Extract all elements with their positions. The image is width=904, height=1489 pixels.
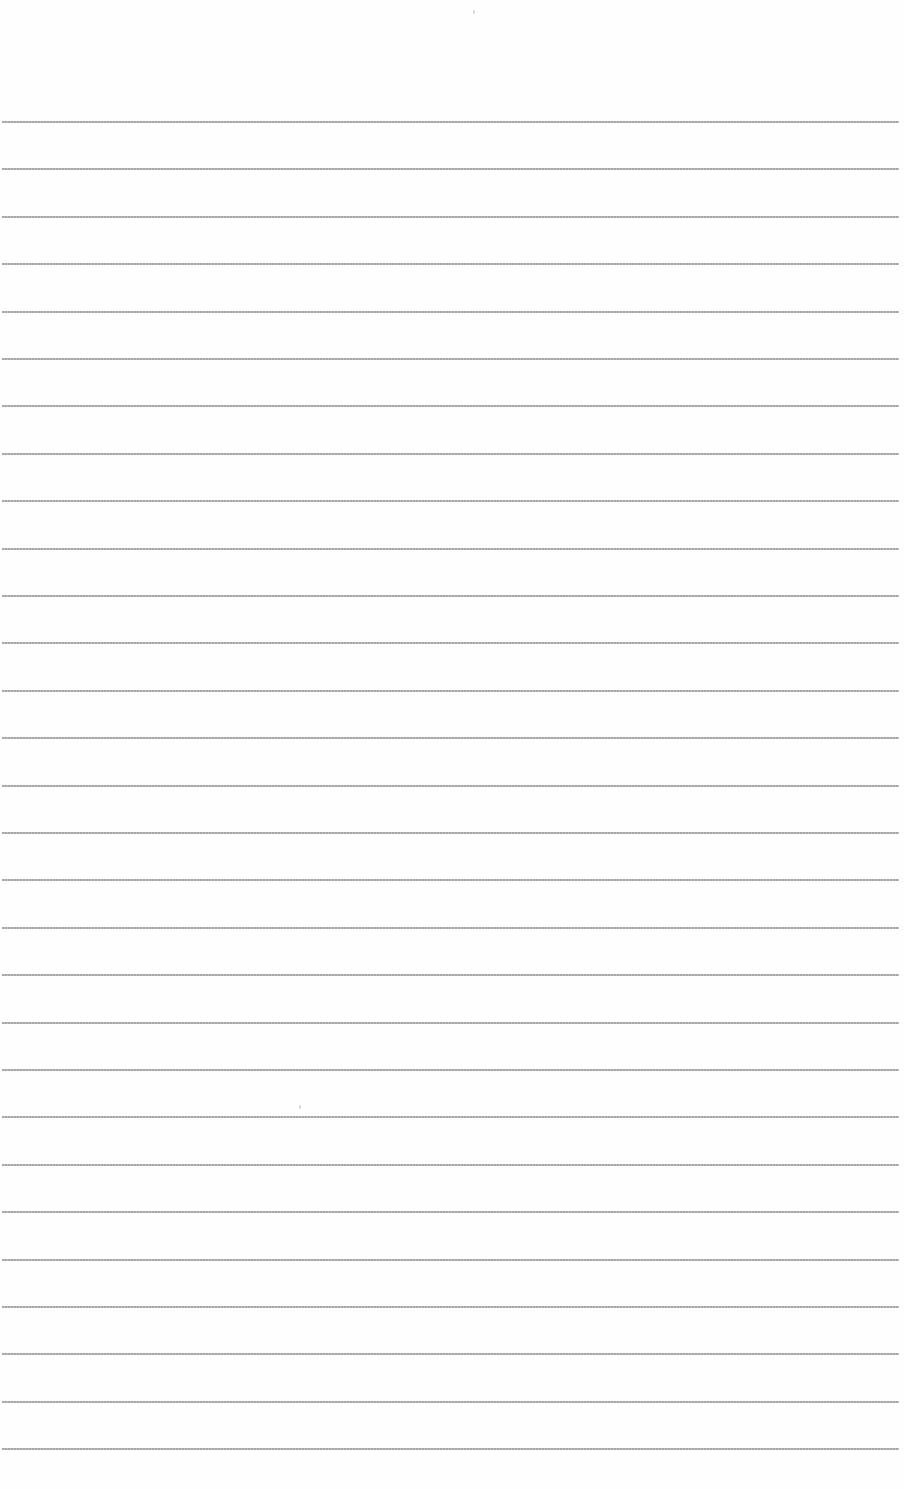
ruled-line (2, 1401, 899, 1403)
ruled-line (2, 974, 899, 976)
ruled-line (2, 595, 899, 597)
ruled-line (2, 168, 899, 170)
ruled-line (2, 216, 899, 218)
scan-speck (299, 1105, 301, 1109)
ruled-line (2, 737, 899, 739)
ruled-line (2, 548, 899, 550)
ruled-line (2, 879, 899, 881)
ruled-line (2, 1022, 899, 1024)
ruled-line (2, 927, 899, 929)
ruled-line (2, 358, 899, 360)
ruled-line (2, 121, 899, 123)
lined-paper-page (0, 0, 904, 1489)
ruled-line (2, 1116, 899, 1118)
ruled-line (2, 500, 899, 502)
ruled-line (2, 642, 899, 644)
ruled-line (2, 690, 899, 692)
ruled-line (2, 1069, 899, 1071)
ruled-line (2, 453, 899, 455)
scan-speck (473, 10, 475, 14)
ruled-line (2, 263, 899, 265)
ruled-line (2, 1306, 899, 1308)
ruled-line (2, 1448, 899, 1450)
ruled-line (2, 1353, 899, 1355)
ruled-line (2, 1211, 899, 1213)
ruled-line (2, 405, 899, 407)
ruled-line (2, 1164, 899, 1166)
ruled-line (2, 785, 899, 787)
ruled-line (2, 832, 899, 834)
ruled-line (2, 311, 899, 313)
ruled-line (2, 1259, 899, 1261)
